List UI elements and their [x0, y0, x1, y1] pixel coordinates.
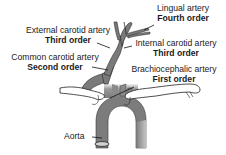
internal-carotid-order: Third order [128, 48, 224, 58]
brachiocephalic-label: Brachiocephalic artery First order [122, 64, 226, 84]
external-carotid-name: External carotid artery [18, 25, 118, 35]
aorta-label: Aorta [64, 131, 85, 141]
external-carotid-label: External carotid artery Third order [18, 25, 118, 45]
lingual-artery-name: Lingual artery [150, 3, 216, 13]
brachiocephalic-order: First order [122, 74, 226, 84]
lingual-artery-label: Lingual artery Fourth order [150, 3, 216, 23]
brachiocephalic-name: Brachiocephalic artery [122, 64, 226, 74]
arterial-branching-diagram: Lingual artery Fourth order External car… [0, 0, 226, 155]
lingual-artery-order: Fourth order [150, 13, 216, 23]
internal-carotid-label: Internal carotid artery Third order [128, 38, 224, 58]
external-carotid-order: Third order [18, 35, 118, 45]
internal-carotid-name: Internal carotid artery [128, 38, 224, 48]
common-carotid-name: Common carotid artery [5, 52, 105, 62]
common-carotid-order: Second order [5, 62, 105, 72]
common-carotid-label: Common carotid artery Second order [5, 52, 105, 72]
